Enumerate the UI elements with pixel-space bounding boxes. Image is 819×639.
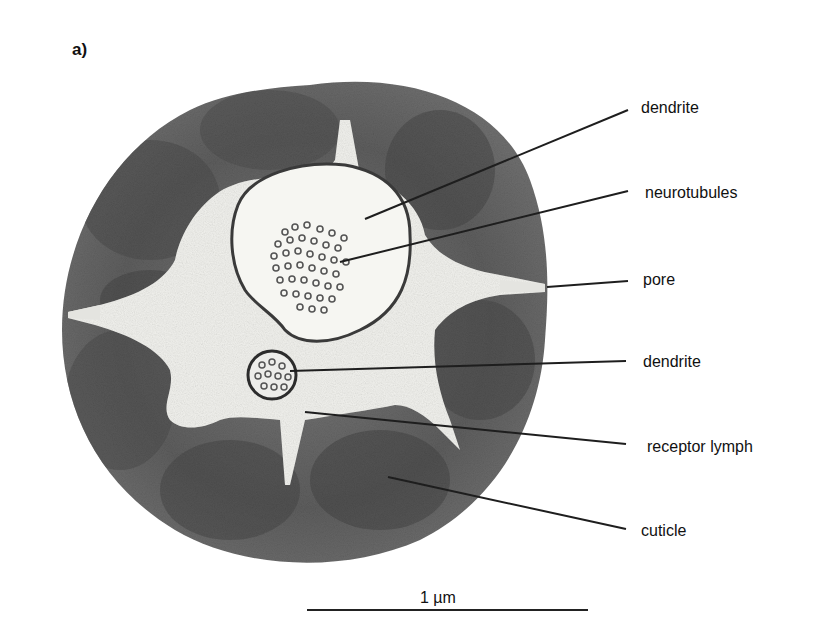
scale-bar (307, 609, 588, 611)
label-cuticle: cuticle (641, 523, 686, 539)
scale-bar-label: 1 µm (420, 589, 456, 607)
sensillum-micrograph (0, 0, 819, 639)
label-pore: pore (643, 272, 675, 288)
leader-pore (547, 281, 628, 287)
label-receptor-lymph: receptor lymph (647, 439, 753, 455)
label-neurotubules: neurotubules (645, 185, 738, 201)
label-dendrite-small: dendrite (643, 354, 701, 370)
label-dendrite-large: dendrite (641, 100, 699, 116)
dendrite-small (248, 351, 296, 399)
